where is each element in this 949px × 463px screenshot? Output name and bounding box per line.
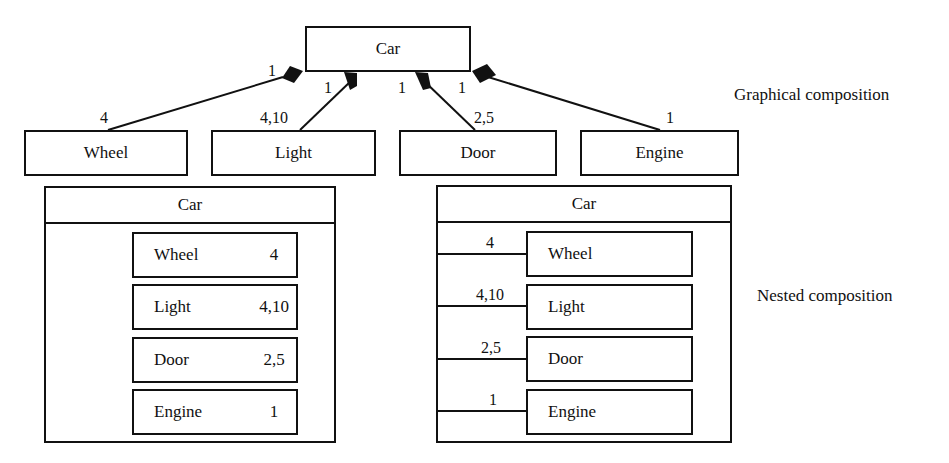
class-name: Light [275, 143, 312, 163]
nested-left-part: Wheel 4 [132, 232, 298, 278]
class-name: Engine [635, 143, 683, 163]
part-multiplicity: 4,10 [254, 297, 294, 317]
class-name: Car [376, 39, 401, 59]
part-multiplicity: 1 [489, 392, 497, 408]
class-name: Car [178, 195, 203, 215]
part-name: Door [548, 349, 583, 369]
nested-right-part: Wheel [526, 231, 693, 277]
graphical-part-light: Light [211, 130, 376, 176]
nested-connector [437, 410, 527, 412]
nested-connector [437, 305, 527, 307]
nested-left-header: Car [46, 188, 334, 224]
whole-multiplicity: 1 [324, 80, 332, 96]
part-name: Wheel [154, 245, 198, 265]
nested-right-header: Car [438, 187, 730, 223]
class-name: Wheel [84, 143, 128, 163]
graphical-whole-car: Car [305, 26, 471, 72]
part-multiplicity: 4 [486, 235, 494, 251]
whole-multiplicity: 1 [398, 80, 406, 96]
nested-left-part: Engine 1 [132, 389, 298, 435]
part-multiplicity: 2,5 [474, 110, 494, 126]
part-name: Engine [154, 402, 202, 422]
graphical-part-door: Door [399, 130, 557, 176]
class-name: Car [572, 194, 597, 214]
nested-right-part: Light [526, 284, 693, 330]
part-multiplicity: 2,5 [481, 340, 501, 356]
composition-diamond-icon [472, 64, 496, 83]
part-name: Light [154, 297, 191, 317]
graphical-part-wheel: Wheel [24, 130, 188, 176]
part-multiplicity: 1 [254, 402, 294, 422]
nested-right-part: Engine [526, 389, 693, 435]
composition-diamond-icon [415, 72, 431, 90]
part-name: Door [154, 350, 189, 370]
whole-multiplicity: 1 [458, 80, 466, 96]
nested-connector [437, 253, 527, 255]
nested-composition-label: Nested composition [757, 286, 893, 306]
composition-diamond-icon [282, 66, 303, 83]
nested-left-part: Door 2,5 [132, 337, 298, 383]
part-name: Light [548, 297, 585, 317]
composition-diamond-icon [344, 72, 357, 90]
class-name: Door [461, 143, 496, 163]
graphical-composition-label: Graphical composition [734, 85, 889, 105]
whole-multiplicity: 1 [268, 63, 276, 79]
part-multiplicity: 4,10 [476, 287, 504, 303]
part-multiplicity: 4,10 [260, 110, 288, 126]
part-name: Wheel [548, 244, 592, 264]
part-multiplicity: 1 [666, 110, 674, 126]
part-name: Engine [548, 402, 596, 422]
part-multiplicity: 4 [254, 245, 294, 265]
nested-left-part: Light 4,10 [132, 284, 298, 330]
nested-connector [437, 358, 527, 360]
nested-right-part: Door [526, 336, 693, 382]
graphical-part-engine: Engine [580, 130, 739, 176]
part-multiplicity: 2,5 [254, 350, 294, 370]
part-multiplicity: 4 [100, 110, 108, 126]
